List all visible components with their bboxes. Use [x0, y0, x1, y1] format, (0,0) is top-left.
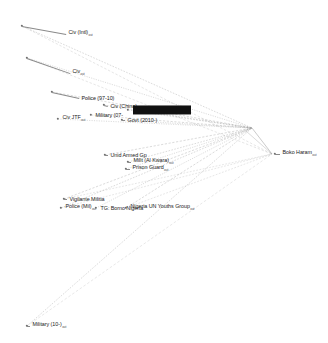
label-leader-line — [122, 120, 125, 121]
node-label-subscript: out — [312, 154, 316, 158]
node-label-boko-haram: Boko Haramout — [283, 149, 317, 158]
node-label-vigilante: Vigilante Militia — [70, 196, 105, 202]
edge-tg-borno-to-boko-haram — [96, 128, 252, 208]
node-label-police-mil: Police (Mil)out — [66, 203, 97, 212]
node-label-civ-jtf: Civ JTFout — [63, 114, 86, 123]
edge-direct-civ-intl — [22, 26, 272, 154]
edge-hub-to-boko-haram-2 — [246, 131, 272, 154]
node-label-youths-group: Nigeria UN Youths Groupout — [131, 203, 195, 212]
node-label-prison-guard: Prison Guardout — [133, 164, 169, 173]
node-label-civ-intl: Civ (Intl)out — [69, 29, 93, 38]
node-label-subscript: out — [190, 208, 194, 212]
label-leader-line — [128, 162, 131, 163]
node-label-military-10: Military (10-)out — [33, 321, 67, 330]
edge-unid-armed-gp-to-boko-haram — [105, 128, 252, 155]
label-leader-line — [105, 155, 108, 156]
edge-direct-military-10 — [27, 154, 272, 326]
node-label-police-97-10: Police (97-10) — [82, 95, 115, 101]
node-label-subscript: out — [81, 73, 85, 77]
node-label-subscript: out — [169, 162, 173, 166]
label-leader-line — [275, 154, 280, 155]
node-label-subscript: out — [164, 169, 168, 173]
node-label-subscript: out — [62, 326, 66, 330]
node-label-civ: Civout — [73, 68, 85, 77]
label-leader-line — [64, 199, 67, 200]
node-label-overlap-hl: Militia (Kwara) Pressout — [133, 105, 192, 114]
label-leader-line — [126, 169, 130, 170]
label-leader-line — [27, 326, 30, 327]
network-graph-canvas: Civ (Intl)outCivoutPolice (97-10)Civ (Ch… — [0, 0, 328, 343]
node-label-subscript: out — [81, 119, 85, 123]
node-label-subscript: out — [186, 110, 191, 114]
node-label-subscript: out — [88, 34, 92, 38]
node-label-military-07: Military (07- — [96, 112, 124, 118]
node-label-govt-2010: Govt (2010-) — [128, 117, 158, 123]
